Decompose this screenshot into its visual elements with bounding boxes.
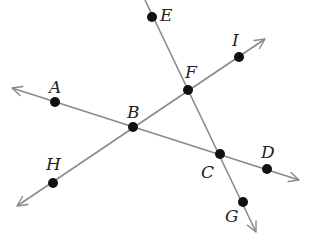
point-label-A: A [47,77,61,97]
point-G [238,197,248,207]
point-F [183,85,193,95]
point-label-E: E [159,5,173,25]
point-B [128,122,138,132]
point-D [262,164,272,174]
point-I [234,52,244,62]
line-EG-segment [145,0,256,232]
point-H [48,178,58,188]
point-label-D: D [260,142,275,162]
point-label-F: F [184,62,198,82]
arrowhead-icon [254,39,265,49]
point-label-H: H [45,154,62,174]
point-label-I: I [231,30,239,50]
labels-layer: ABCDEFGHI [45,5,275,226]
point-label-G: G [225,206,239,226]
point-E [147,12,157,22]
lines-layer [12,0,299,232]
point-C [215,149,225,159]
line-EG [145,0,256,232]
arrowhead-icon [17,196,28,206]
geometry-diagram: ABCDEFGHI [0,0,312,238]
point-A [50,97,60,107]
point-label-C: C [201,162,214,182]
point-label-B: B [126,102,140,122]
